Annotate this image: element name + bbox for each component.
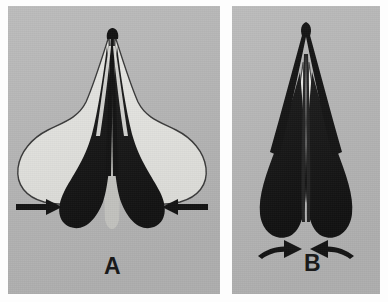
panel-label-a: A — [104, 255, 121, 278]
panel-label-b: B — [304, 252, 321, 275]
panel-a-graphic — [8, 6, 220, 294]
figure-root: A B — [0, 0, 388, 302]
panel-a — [8, 6, 220, 294]
